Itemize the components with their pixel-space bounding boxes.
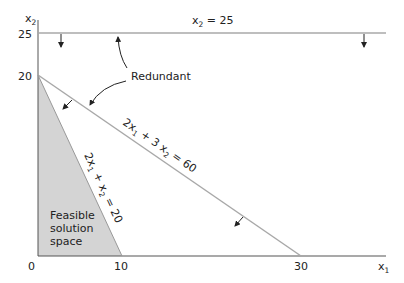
constraint-label-2x1-3x2-60: 2x1 + 3 x2 = 60 [119, 116, 199, 177]
down-left-arrow-icon [235, 217, 243, 226]
feasible-label-line2: solution [50, 222, 94, 235]
y-tick-20: 20 [18, 70, 32, 83]
x-axis-label: x1 [378, 260, 390, 275]
redundant-arrow-icon [90, 81, 126, 105]
x-tick-30: 30 [294, 260, 308, 273]
svg-text:2x1 + 3 x2 = 60: 2x1 + 3 x2 = 60 [119, 116, 199, 177]
x-tick-10: 10 [114, 260, 128, 273]
feasible-label-line1: Feasible [50, 209, 95, 222]
redundant-label: Redundant [131, 70, 192, 83]
y-axis-label: x2 [25, 12, 37, 27]
x-tick-0: 0 [28, 260, 35, 273]
constraint-label-x2-25: x2 = 25 [192, 14, 234, 29]
y-tick-25: 25 [18, 28, 32, 41]
feasible-label-line3: space [50, 235, 83, 248]
lp-graph: x2 25 20 0 10 30 x1 x2 = 25 Redundant 2x… [0, 0, 404, 283]
down-left-arrow-icon [63, 100, 72, 109]
redundant-arrow-icon [118, 37, 127, 68]
